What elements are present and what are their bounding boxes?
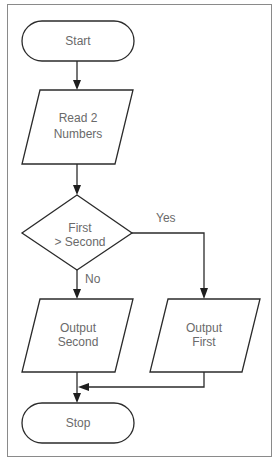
flowchart: Start Read 2 Numbers First > Second Yes … xyxy=(0,0,277,463)
decision-label-line1: First xyxy=(68,221,92,235)
output-second-label-line2: Second xyxy=(58,335,99,349)
decision-node: First > Second xyxy=(22,195,132,270)
arrow-down-icon xyxy=(73,289,81,299)
edge-output-first-to-merge xyxy=(78,372,204,391)
edge-no: No xyxy=(73,270,101,299)
arrow-down-icon xyxy=(73,80,81,90)
stop-label: Stop xyxy=(66,416,91,430)
start-node: Start xyxy=(22,21,134,61)
arrow-down-icon xyxy=(73,185,81,195)
read-label-line2: Numbers xyxy=(54,127,103,141)
edge-read-to-decision xyxy=(73,164,81,195)
edge-start-to-read xyxy=(73,61,81,90)
output-first-node: Output First xyxy=(150,299,260,372)
yes-label: Yes xyxy=(156,211,176,225)
decision-label-line2: > Second xyxy=(54,235,105,249)
read-label-line1: Read 2 xyxy=(59,111,98,125)
no-label: No xyxy=(85,272,101,286)
output-first-label-line2: First xyxy=(192,335,216,349)
stop-node: Stop xyxy=(22,403,134,443)
arrow-down-icon xyxy=(200,288,208,299)
output-first-label-line1: Output xyxy=(186,321,223,335)
edge-yes: Yes xyxy=(132,211,208,299)
read-numbers-node: Read 2 Numbers xyxy=(22,90,133,164)
arrow-down-icon xyxy=(73,393,81,403)
start-label: Start xyxy=(65,34,91,48)
output-second-label-line1: Output xyxy=(60,321,97,335)
arrow-left-icon xyxy=(78,383,89,391)
output-second-node: Output Second xyxy=(22,299,133,372)
